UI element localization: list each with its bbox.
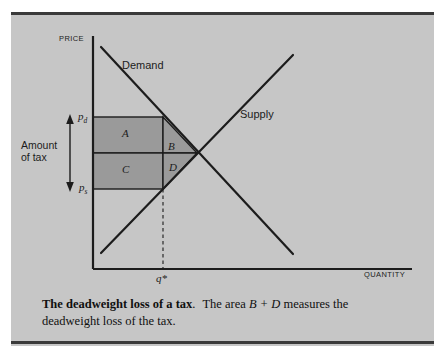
quantity-star-superscript: * <box>162 272 168 284</box>
caption-text-1: The area <box>202 297 249 311</box>
figure-caption: The deadweight loss of a tax.The area B … <box>42 296 404 330</box>
tax-arrow-head-down <box>66 182 74 192</box>
region-a-label: A <box>122 127 129 140</box>
region-b-label: B <box>168 140 175 153</box>
quantity-axis-label: QUANTITY <box>364 271 405 280</box>
figure-root: PRICE QUANTITY Demand Supply Amount of t… <box>0 0 445 358</box>
caption-math: B + D <box>249 297 280 311</box>
amount-of-tax-line1: Amount <box>21 139 57 151</box>
amount-of-tax-label: Amount of tax <box>21 139 57 163</box>
region-c-label: C <box>122 163 129 176</box>
quantity-star-label: q* <box>156 272 167 285</box>
price-demand-label: pd <box>78 110 87 126</box>
caption-title-period: . <box>192 297 195 311</box>
price-supply-subscript: s <box>85 187 88 196</box>
supply-curve-label: Supply <box>240 108 274 121</box>
price-supply-label: ps <box>79 181 87 197</box>
amount-of-tax-line2: of tax <box>21 151 47 163</box>
caption-title: The deadweight loss of a tax <box>42 297 192 311</box>
price-axis-label: PRICE <box>59 35 84 44</box>
price-demand-subscript: d <box>84 116 88 125</box>
region-d-label: D <box>169 161 177 174</box>
tax-arrow-head-up <box>66 114 74 124</box>
demand-curve-label: Demand <box>122 59 164 72</box>
